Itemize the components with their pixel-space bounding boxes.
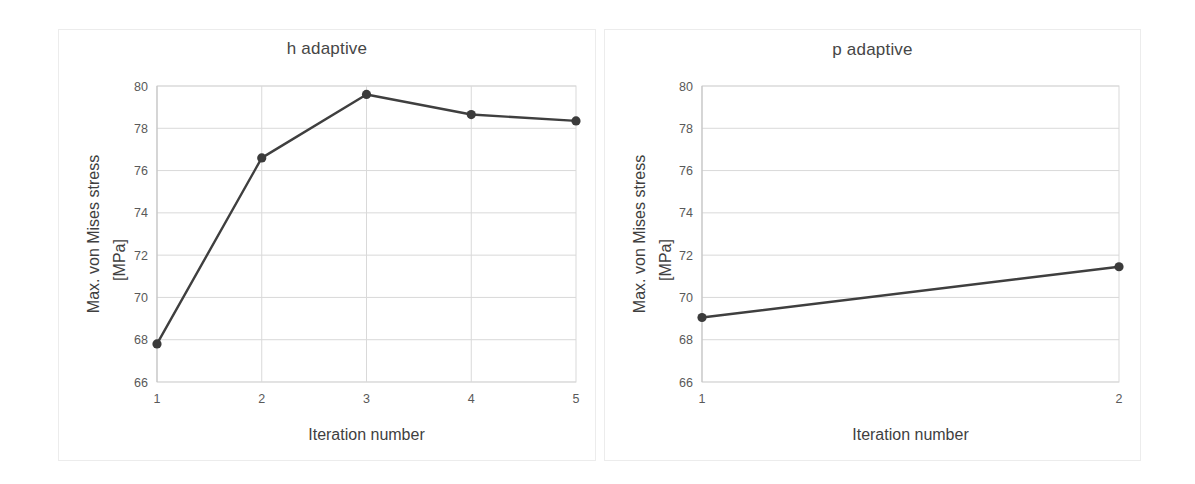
x-axis-tick-label: 2 xyxy=(258,392,265,406)
y-axis-tick-label: 80 xyxy=(134,80,148,94)
plot-area-border xyxy=(702,86,1119,382)
data-point-marker xyxy=(257,153,266,162)
data-point-marker xyxy=(467,110,476,119)
y-axis-tick-label: 72 xyxy=(679,249,693,263)
line-chart-p-adaptive: 666870727476788012Iteration numberMax. v… xyxy=(605,30,1140,460)
x-axis-tick-label: 2 xyxy=(1116,392,1123,406)
x-axis-title: Iteration number xyxy=(308,426,425,443)
y-axis-tick-label: 68 xyxy=(679,333,693,347)
x-axis-tick-label: 1 xyxy=(154,392,161,406)
y-axis-title-line1: Max. von Mises stress xyxy=(85,155,102,313)
y-axis-tick-label: 76 xyxy=(679,164,693,178)
line-chart-h-adaptive: 666870727476788012345Iteration numberMax… xyxy=(59,30,595,460)
data-point-marker xyxy=(697,313,706,322)
y-axis-tick-label: 74 xyxy=(679,206,693,220)
chart-panel-h-adaptive: h adaptive 666870727476788012345Iteratio… xyxy=(58,29,596,461)
y-axis-tick-label: 74 xyxy=(134,206,148,220)
y-axis-tick-label: 78 xyxy=(679,122,693,136)
y-axis-tick-label: 80 xyxy=(679,80,693,94)
y-axis-tick-label: 70 xyxy=(134,291,148,305)
x-axis-tick-label: 4 xyxy=(468,392,475,406)
x-axis-tick-label: 3 xyxy=(363,392,370,406)
data-series-line xyxy=(702,267,1119,318)
y-axis-title-line2: [MPa] xyxy=(657,239,674,281)
x-axis-tick-label: 1 xyxy=(699,392,706,406)
x-axis-tick-label: 5 xyxy=(573,392,580,406)
y-axis-tick-label: 76 xyxy=(134,164,148,178)
data-point-marker xyxy=(1114,262,1123,271)
x-axis-title: Iteration number xyxy=(852,426,969,443)
y-axis-tick-label: 72 xyxy=(134,249,148,263)
figure-root: h adaptive 666870727476788012345Iteratio… xyxy=(0,0,1195,484)
y-axis-tick-label: 66 xyxy=(679,376,693,390)
y-axis-title-line2: [MPa] xyxy=(111,239,128,281)
data-point-marker xyxy=(571,116,580,125)
data-point-marker xyxy=(362,90,371,99)
y-axis-tick-label: 78 xyxy=(134,122,148,136)
chart-canvas-p-adaptive: 666870727476788012Iteration numberMax. v… xyxy=(605,30,1140,460)
y-axis-tick-label: 70 xyxy=(679,291,693,305)
y-axis-tick-label: 66 xyxy=(134,376,148,390)
y-axis-tick-label: 68 xyxy=(134,333,148,347)
chart-canvas-h-adaptive: 666870727476788012345Iteration numberMax… xyxy=(59,30,595,460)
data-point-marker xyxy=(152,339,161,348)
y-axis-title-line1: Max. von Mises stress xyxy=(631,155,648,313)
chart-panel-p-adaptive: p adaptive 666870727476788012Iteration n… xyxy=(604,29,1141,461)
